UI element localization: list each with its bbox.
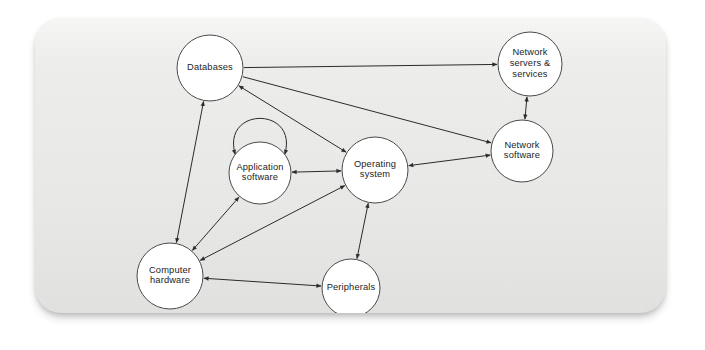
figure-root: DatabasesNetworkservers &servicesNetwork… <box>0 0 705 350</box>
node-label-peripherals: Peripherals <box>327 282 376 292</box>
node-label-network_servers: Networkservers &services <box>510 48 551 79</box>
edge-operating_system-to-application_software <box>292 171 341 172</box>
node-label-application_software: Applicationsoftware <box>236 162 283 183</box>
edge-computer_hardware-to-peripherals <box>204 278 321 286</box>
node-label-operating_system: Operatingsystem <box>354 159 396 180</box>
edge-databases-to-computer_hardware <box>176 101 203 242</box>
node-label-network_software: Networksoftware <box>504 140 540 161</box>
edge-operating_system-to-peripherals <box>357 203 368 258</box>
edge-databases-to-network_software <box>243 77 491 143</box>
node-peripherals[interactable]: Peripherals <box>322 259 380 313</box>
node-network_servers[interactable]: Networkservers &services <box>498 32 562 96</box>
node-label-computer_hardware: Computerhardware <box>149 265 191 286</box>
node-databases[interactable]: Databases <box>177 35 243 101</box>
edge-network_software-to-network_servers <box>525 97 527 119</box>
nodes-layer: DatabasesNetworkservers &servicesNetwork… <box>137 32 562 313</box>
node-application_software[interactable]: Applicationsoftware <box>229 142 291 204</box>
node-network_software[interactable]: Networksoftware <box>491 120 553 182</box>
node-label-databases: Databases <box>187 62 233 72</box>
edge-databases-to-network_servers <box>244 64 497 67</box>
diagram-card: DatabasesNetworkservers &servicesNetwork… <box>35 18 666 313</box>
edge-network_software-to-operating_system <box>409 155 491 166</box>
system-components-graph: DatabasesNetworkservers &servicesNetwork… <box>35 18 666 313</box>
node-operating_system[interactable]: Operatingsystem <box>342 137 408 203</box>
node-computer_hardware[interactable]: Computerhardware <box>137 243 203 309</box>
edge-application_software-to-computer_hardware <box>192 197 239 250</box>
